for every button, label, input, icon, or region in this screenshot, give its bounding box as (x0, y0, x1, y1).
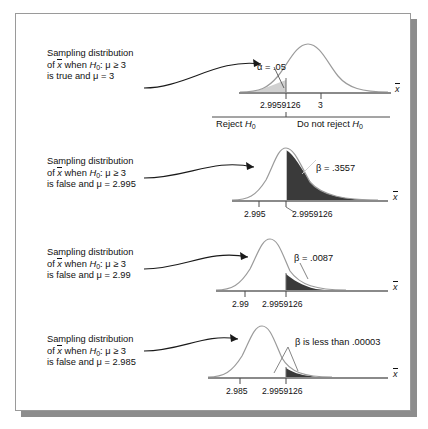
x-axis-label: x (393, 192, 398, 202)
caption-prefix: of (47, 60, 57, 70)
caption-post: : μ ≥ 3 (100, 346, 126, 356)
tick-label-mean: 3 (318, 100, 323, 110)
beta-shaded-region (286, 274, 334, 290)
sampling-distribution-curve (216, 239, 346, 290)
x-axis-label: x (395, 84, 400, 94)
beta-annotation: β is less than .00003 (295, 337, 380, 347)
x-bar-glyph: x (57, 168, 62, 180)
h-subscript: 0 (96, 350, 100, 357)
panel-beta-2985-caption: Sampling distribution of x when H0: μ ≥ … (47, 334, 136, 369)
caption-line-3: is false and μ = 2.99 (47, 270, 133, 282)
accept-h-subscript: 0 (359, 123, 363, 130)
figure-root: Sampling distribution of x when H0: μ ≥ … (0, 0, 428, 429)
caption-mid: when (62, 346, 89, 356)
callout-arrow-path (144, 255, 248, 269)
x-bar-glyph: x (57, 346, 62, 358)
callout-arrow-path (144, 165, 254, 178)
caption-mid: when (62, 60, 89, 70)
caption-mid: when (62, 168, 89, 178)
accept-text: Do not reject (297, 119, 352, 129)
x-axis-label: x (393, 282, 398, 292)
alpha-shaded-region (244, 80, 286, 92)
caption-prefix: of (47, 346, 57, 356)
caption-prefix: of (47, 168, 57, 178)
tick-label-critical: 2.9959126 (292, 209, 333, 219)
caption-line-3: is true and μ = 3 (47, 71, 133, 83)
x-axis-label: x (393, 369, 398, 379)
figure-plate: Sampling distribution of x when H0: μ ≥ … (15, 13, 411, 411)
accept-h-symbol: H (352, 119, 359, 129)
caption-line-3: is false and μ = 2.985 (47, 357, 136, 369)
tick-label-mean: 2.995 (244, 209, 266, 219)
beta-shaded-region (286, 150, 376, 200)
x-bar-glyph: x (57, 60, 62, 72)
panel-beta-299: Sampling distribution of x when H0: μ ≥ … (16, 227, 410, 315)
caption-post: : μ ≥ 3 (100, 168, 126, 178)
callout-arrowhead (246, 162, 254, 170)
tick-label-critical: 2.9959126 (260, 100, 301, 110)
caption-line-2: of x when H0: μ ≥ 3 (47, 60, 133, 72)
h-subscript: 0 (96, 263, 100, 270)
caption-mid: when (62, 259, 89, 269)
x-bar-glyph: x (57, 259, 62, 271)
accept-region-label: Do not reject H0 (297, 119, 363, 129)
reject-text: Reject (216, 119, 245, 129)
caption-line-2: of x when H0: μ ≥ 3 (47, 346, 136, 358)
caption-post: : μ ≥ 3 (100, 60, 126, 70)
panel-alpha: Sampling distribution of x when H0: μ ≥ … (16, 14, 410, 134)
tick-label-critical: 2.9959126 (262, 299, 303, 309)
beta-annotation: β = .3557 (316, 163, 355, 173)
caption-line-3: is false and μ = 2.995 (47, 179, 136, 191)
beta-shaded-region (286, 368, 322, 377)
callout-arrowhead (240, 252, 248, 260)
tick-label-mean: 2.99 (232, 299, 249, 309)
beta-annotation: β = .0087 (294, 253, 333, 263)
alpha-annotation: α = .05 (257, 62, 286, 72)
beta-leader-line (302, 160, 316, 174)
caption-prefix: of (47, 259, 57, 269)
tick-label-mean: 2.985 (226, 386, 248, 396)
callout-arrow-path (144, 338, 238, 351)
panel-beta-2985: Sampling distribution of x when H0: μ ≥ … (16, 315, 410, 410)
tick-label-critical: 2.9959126 (262, 386, 303, 396)
beta-leader-line (300, 263, 308, 279)
caption-post: : μ ≥ 3 (100, 259, 126, 269)
caption-line-2: of x when H0: μ ≥ 3 (47, 168, 136, 180)
h-subscript: 0 (96, 172, 100, 179)
panel-alpha-caption: Sampling distribution of x when H0: μ ≥ … (47, 48, 133, 83)
h-subscript: 0 (96, 64, 100, 71)
callout-arrow-path (144, 63, 261, 88)
panel-beta-299-caption: Sampling distribution of x when H0: μ ≥ … (47, 247, 133, 282)
panel-beta-2995: Sampling distribution of x when H0: μ ≥ … (16, 134, 410, 227)
callout-arrowhead (230, 334, 238, 342)
caption-line-2: of x when H0: μ ≥ 3 (47, 259, 133, 271)
panel-beta-2995-caption: Sampling distribution of x when H0: μ ≥ … (47, 156, 136, 191)
reject-h-subscript: 0 (252, 123, 256, 130)
reject-h-symbol: H (245, 119, 252, 129)
reject-region-label: Reject H0 (216, 119, 256, 129)
sampling-distribution-curve (208, 326, 332, 377)
